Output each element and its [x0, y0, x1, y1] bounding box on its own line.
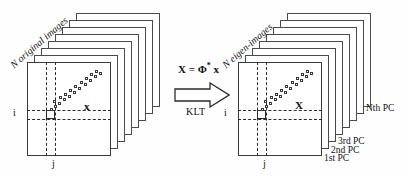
scatter-point	[291, 81, 294, 84]
right-column-label: j	[263, 158, 266, 169]
right-front-image: X	[238, 62, 322, 156]
right-arrow-icon	[174, 82, 230, 108]
scatter-point	[94, 75, 97, 78]
scatter-point	[99, 72, 102, 75]
scatter-point	[64, 93, 67, 96]
scatter-point	[78, 87, 81, 90]
pc-label-3rd: 3rd PC	[338, 136, 365, 146]
left-vector-symbol: x	[84, 100, 90, 112]
left-column-label: j	[52, 158, 55, 169]
scatter-point	[279, 95, 282, 98]
scatter-point	[280, 89, 283, 92]
transform-equation: X = Φ* x	[178, 61, 219, 75]
scatter-point	[63, 98, 66, 101]
left-front-image: x	[27, 62, 111, 156]
scatter-point	[90, 73, 93, 76]
pixel-cell	[257, 110, 266, 119]
scatter-point	[270, 96, 273, 99]
scatter-point	[80, 81, 83, 84]
scatter-point	[54, 105, 57, 108]
klt-label: KLT	[186, 106, 205, 117]
equation-rhs: x	[214, 63, 220, 75]
scatter-point	[296, 77, 299, 80]
scatter-point	[68, 95, 71, 98]
scatter-point	[274, 98, 277, 101]
left-row-label: i	[13, 107, 16, 118]
column-guide-line	[266, 62, 267, 156]
column-guide-line	[55, 62, 56, 156]
figure-canvas: x N original images i j X = Φ* x KLT	[0, 0, 408, 176]
scatter-point	[265, 105, 268, 108]
scatter-point	[275, 93, 278, 96]
scatter-point	[53, 100, 56, 103]
scatter-point	[58, 102, 61, 105]
right-row-label: i	[224, 107, 227, 118]
scatter-point	[74, 85, 77, 88]
scatter-point	[84, 83, 87, 86]
row-guide-line	[238, 110, 322, 111]
column-guide-line	[46, 62, 47, 156]
equation-phi: Φ	[198, 63, 207, 75]
row-guide-line	[238, 119, 322, 120]
pc-label-nth: Nth PC	[366, 103, 394, 113]
right-vector-symbol: X	[295, 99, 303, 111]
scatter-point	[73, 91, 76, 94]
scatter-point	[95, 70, 98, 73]
scatter-point	[50, 108, 53, 111]
row-guide-line	[27, 110, 111, 111]
row-guide-line	[27, 119, 111, 120]
column-guide-line	[257, 62, 258, 156]
scatter-point	[300, 79, 303, 82]
equation-lhs: X	[178, 63, 186, 75]
scatter-point	[295, 83, 298, 86]
scatter-point	[284, 91, 287, 94]
scatter-point	[269, 102, 272, 105]
scatter-point	[306, 70, 309, 73]
pixel-cell	[46, 110, 55, 119]
scatter-point	[85, 77, 88, 80]
scatter-point	[264, 100, 267, 103]
pc-label-2nd: 2nd PC	[331, 145, 359, 155]
scatter-point	[310, 72, 313, 75]
scatter-point	[59, 96, 62, 99]
scatter-point	[89, 79, 92, 82]
scatter-point	[301, 73, 304, 76]
scatter-point	[285, 85, 288, 88]
scatter-point	[69, 89, 72, 92]
equation-equals: =	[189, 63, 195, 75]
scatter-point	[261, 108, 264, 111]
equation-superscript: *	[207, 61, 211, 70]
scatter-point	[305, 75, 308, 78]
scatter-point	[289, 87, 292, 90]
